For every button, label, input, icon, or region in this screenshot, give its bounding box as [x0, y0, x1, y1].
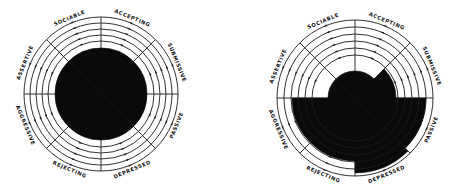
sector-divider	[134, 40, 156, 62]
arrow-mark-icon	[70, 21, 74, 23]
arrow-mark-icon	[407, 75, 409, 79]
sector-label-rejecting: REJECTING	[305, 164, 341, 184]
arrow-mark-icon	[383, 25, 387, 27]
arrow-mark-icon	[375, 45, 379, 47]
sector-divider	[47, 127, 69, 149]
arrow-mark-icon	[329, 37, 333, 39]
arrow-mark-icon	[420, 69, 422, 73]
arrow-mark-icon	[72, 27, 76, 29]
arrow-mark-icon	[149, 72, 151, 76]
arrow-mark-icon	[29, 62, 31, 66]
arrow-mark-icon	[337, 57, 341, 59]
arrow-mark-icon	[77, 38, 81, 40]
arrow-mark-icon	[148, 113, 150, 117]
arrow-mark-icon	[289, 69, 291, 73]
arrow-mark-icon	[129, 22, 133, 24]
arrow-mark-icon	[372, 51, 376, 53]
arrow-mark-icon	[326, 162, 330, 164]
profile-fill	[55, 48, 147, 140]
arrow-mark-icon	[381, 32, 385, 34]
sector-label-assertive: ASSERTIVE	[268, 48, 288, 84]
sector-label-accepting: ACCEPTING	[114, 8, 152, 28]
arrow-mark-icon	[124, 33, 128, 35]
sector-divider	[134, 127, 156, 149]
arrow-mark-icon	[378, 38, 382, 40]
circumplex-diagram-left: SOCIABLEACCEPTINGSUBMISSIVEPASSIVEDEPRES…	[15, 8, 188, 180]
arrow-mark-icon	[426, 66, 428, 70]
sector-label-passive: PASSIVE	[168, 111, 184, 139]
arrow-mark-icon	[394, 80, 396, 84]
arrow-mark-icon	[302, 74, 304, 78]
arrow-mark-icon	[76, 147, 80, 149]
arrow-mark-icon	[154, 115, 156, 119]
arrow-mark-icon	[165, 120, 167, 124]
arrow-mark-icon	[46, 69, 48, 73]
arrow-mark-icon	[401, 77, 403, 81]
arrow-mark-icon	[126, 159, 130, 161]
arrow-mark-icon	[155, 70, 157, 74]
sector-label-accepting: ACCEPTING	[368, 11, 406, 31]
arrow-mark-icon	[326, 31, 330, 33]
circumplex-diagram-right: SOCIABLEACCEPTINGSUBMISSIVEPASSIVEDEPRES…	[268, 11, 443, 185]
arrow-mark-icon	[74, 32, 78, 34]
arrow-mark-icon	[39, 117, 41, 121]
arrow-mark-icon	[127, 28, 131, 30]
arrow-mark-icon	[370, 58, 374, 60]
arrow-mark-icon	[323, 24, 327, 26]
sector-divider	[300, 43, 336, 79]
arrow-mark-icon	[34, 119, 36, 123]
arrow-mark-icon	[166, 65, 168, 69]
arrow-mark-icon	[308, 77, 310, 81]
arrow-mark-icon	[40, 67, 42, 71]
arrow-mark-icon	[124, 153, 128, 155]
arrow-mark-icon	[334, 50, 338, 52]
sector-label-assertive: ASSERTIVE	[15, 44, 35, 80]
arrow-mark-icon	[50, 112, 52, 116]
arrow-mark-icon	[288, 123, 290, 127]
arrow-mark-icon	[315, 80, 317, 84]
arrow-mark-icon	[45, 115, 47, 119]
sector-label-passive: PASSIVE	[423, 115, 439, 143]
arrow-mark-icon	[74, 152, 78, 154]
diagram-canvas: SOCIABLEACCEPTINGSUBMISSIVEPASSIVEDEPRES…	[0, 0, 457, 194]
arrow-mark-icon	[79, 141, 83, 143]
arrow-mark-icon	[79, 43, 83, 45]
arrow-mark-icon	[160, 67, 162, 71]
arrow-mark-icon	[282, 66, 284, 70]
sector-divider	[374, 43, 410, 79]
arrow-mark-icon	[171, 63, 173, 67]
arrow-mark-icon	[51, 72, 53, 76]
arrow-mark-icon	[122, 39, 126, 41]
arrow-mark-icon	[332, 44, 336, 46]
arrow-mark-icon	[72, 158, 76, 160]
sector-divider	[47, 40, 69, 62]
arrow-mark-icon	[413, 72, 415, 76]
arrow-mark-icon	[35, 65, 37, 69]
arrow-mark-icon	[159, 117, 161, 121]
arrow-mark-icon	[295, 71, 297, 75]
arrow-mark-icon	[120, 44, 124, 46]
sector-label-submissive: SUBMISSIVE	[421, 46, 443, 87]
arrow-mark-icon	[122, 148, 126, 150]
arrow-mark-icon	[119, 142, 123, 144]
